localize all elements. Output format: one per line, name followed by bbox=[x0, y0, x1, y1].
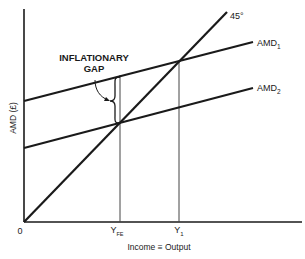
tick-yfe: YFE bbox=[110, 225, 123, 237]
line-45deg bbox=[24, 12, 227, 222]
label-45deg: 45° bbox=[230, 11, 244, 21]
gap-brace bbox=[110, 77, 120, 123]
y-axis-label: AMD (£) bbox=[8, 102, 18, 134]
label-amd2: AMD2 bbox=[257, 83, 281, 95]
origin-label: 0 bbox=[17, 226, 22, 236]
x-axis-label: Income ≡ Output bbox=[127, 242, 191, 252]
gap-label-line1: INFLATIONARY bbox=[59, 52, 129, 63]
gap-label-line2: GAP bbox=[84, 63, 105, 74]
label-amd1: AMD1 bbox=[257, 38, 281, 50]
chart-figure: INFLATIONARY GAP 45° AMD1 AMD2 AMD (£) 0… bbox=[0, 0, 305, 259]
line-amd1 bbox=[24, 42, 253, 101]
line-amd2 bbox=[24, 88, 253, 148]
tick-y1: Y1 bbox=[174, 225, 184, 237]
